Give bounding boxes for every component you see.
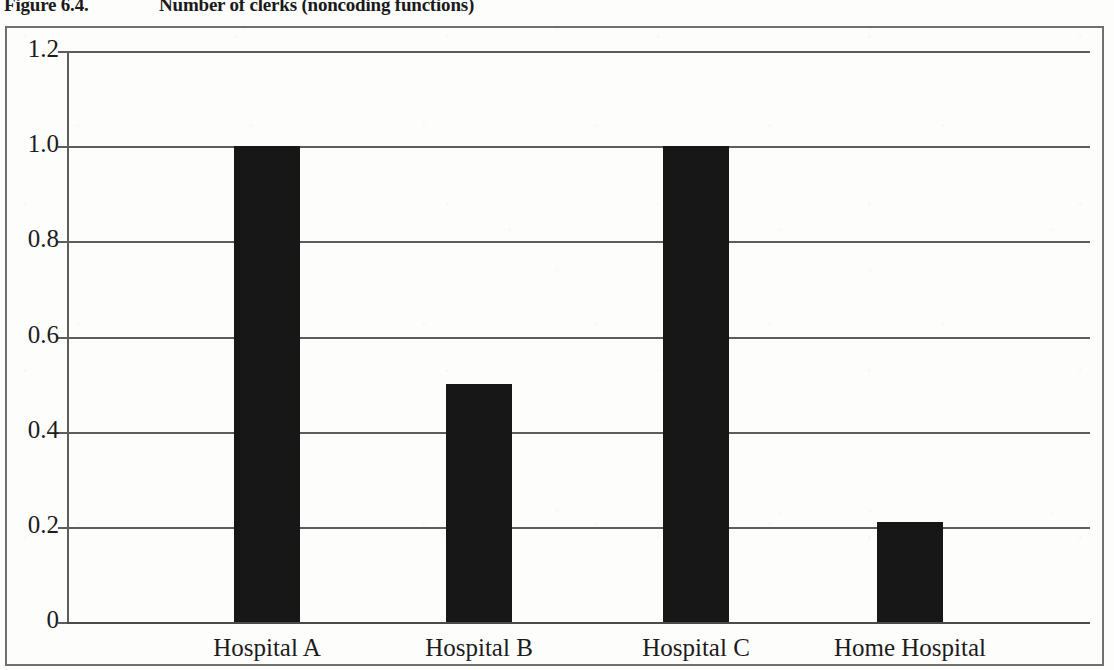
y-axis-label: 0.2 — [28, 511, 59, 539]
bar — [446, 384, 512, 622]
y-axis-label: 0.8 — [28, 225, 59, 253]
gridline — [67, 241, 1090, 243]
plot-area — [67, 51, 1090, 622]
y-axis-tick — [58, 527, 67, 529]
bar — [234, 146, 300, 622]
figure-number: Figure 6.4. — [4, 0, 89, 16]
y-axis-tick — [58, 337, 67, 339]
y-axis-label: 1.0 — [28, 130, 59, 158]
bar — [663, 146, 729, 622]
gridline — [67, 51, 1090, 53]
x-axis-label: Home Hospital — [782, 634, 1038, 662]
figure-caption: Figure 6.4. Number of clerks (noncoding … — [0, 0, 1114, 18]
gridline — [67, 622, 1090, 624]
figure-page: Figure 6.4. Number of clerks (noncoding … — [0, 0, 1114, 670]
y-axis-label: 1.2 — [28, 35, 59, 63]
gridline — [67, 432, 1090, 434]
bar — [877, 522, 943, 622]
gridline — [67, 146, 1090, 148]
y-axis-label: 0.4 — [28, 416, 59, 444]
y-axis-label: 0.6 — [28, 321, 59, 349]
gridline — [67, 337, 1090, 339]
y-axis-tick — [58, 51, 67, 53]
y-axis-tick — [58, 241, 67, 243]
y-axis-tick — [58, 432, 67, 434]
y-axis-tick — [58, 622, 67, 624]
y-axis-label: 0 — [47, 606, 60, 634]
figure-title: Number of clerks (noncoding functions) — [159, 0, 474, 16]
y-axis-tick — [58, 146, 67, 148]
